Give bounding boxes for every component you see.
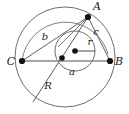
point-c bbox=[19, 58, 25, 64]
point-b bbox=[107, 58, 113, 64]
segment-cevian-a bbox=[58, 17, 88, 47]
label-side-b: b bbox=[42, 31, 48, 42]
label-side-c: c bbox=[93, 26, 99, 37]
point-incenter bbox=[59, 55, 65, 61]
point-a bbox=[85, 14, 91, 20]
label-vertex-a: A bbox=[92, 0, 101, 13]
geometry-figure: A B C a b c r R bbox=[0, 0, 129, 114]
label-vertex-c: C bbox=[7, 55, 16, 68]
point-circumcenter bbox=[72, 48, 78, 54]
label-circumradius: R bbox=[43, 80, 52, 91]
label-vertex-b: B bbox=[114, 55, 123, 68]
label-side-a: a bbox=[69, 66, 75, 77]
triangle-circles-diagram: A B C a b c r R bbox=[0, 0, 129, 114]
